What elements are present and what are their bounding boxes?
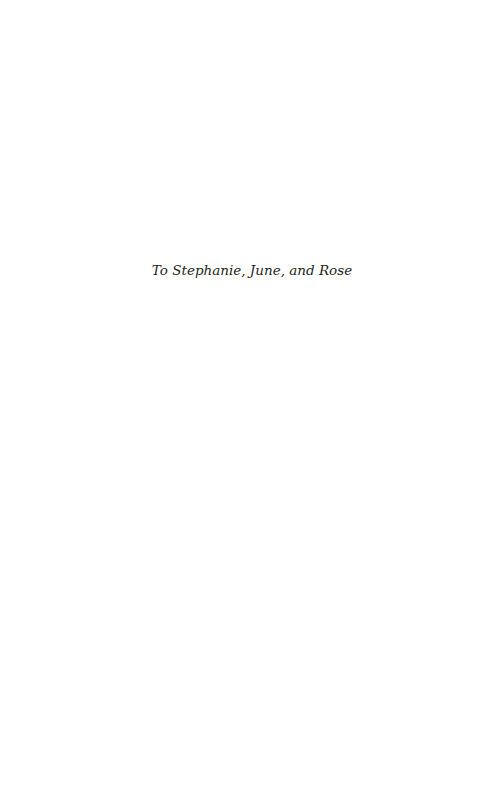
dedication-text: To Stephanie, June, and Rose <box>0 262 504 278</box>
book-page: To Stephanie, June, and Rose <box>0 0 504 792</box>
